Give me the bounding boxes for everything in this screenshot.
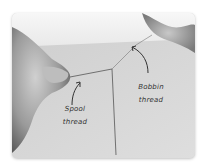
bobbin-thread-label: Bobbin thread	[132, 83, 170, 104]
spool-label-line-2: thread	[58, 118, 92, 126]
bobbin-label-line-2: thread	[132, 96, 170, 104]
sewing-thread-photo: Spool thread Bobbin thread	[12, 13, 195, 158]
spool-thread-label: Spool thread	[58, 105, 92, 126]
bobbin-label-line-1: Bobbin	[132, 83, 170, 91]
spool-label-line-1: Spool	[58, 105, 92, 113]
